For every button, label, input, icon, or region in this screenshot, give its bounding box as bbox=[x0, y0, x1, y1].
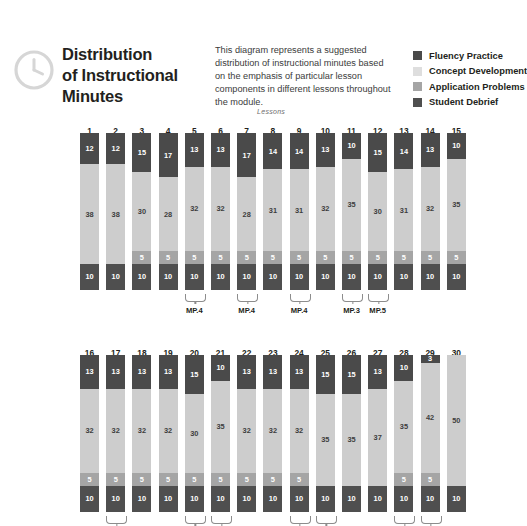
segment-debrief-lesson-5: 10 bbox=[185, 264, 204, 290]
legend-swatch-application-problems bbox=[413, 82, 422, 91]
segment-fluency-lesson-21: 10 bbox=[211, 355, 230, 381]
mp-bracket-lesson-20 bbox=[185, 516, 206, 524]
mp-bracket-lesson-24 bbox=[290, 516, 311, 524]
segment-debrief-lesson-3: 10 bbox=[132, 264, 151, 290]
legend-swatch-fluency bbox=[413, 51, 422, 60]
lesson-bar-15[interactable]: 1035510 bbox=[447, 140, 466, 290]
segment-app-lesson-23: 5 bbox=[263, 473, 282, 486]
segment-fluency-lesson-7: 17 bbox=[237, 133, 256, 178]
lesson-bar-19[interactable]: 1332510 bbox=[159, 362, 178, 512]
lesson-bar-14[interactable]: 1332510 bbox=[421, 140, 440, 290]
segment-debrief-lesson-7: 10 bbox=[237, 264, 256, 290]
segment-debrief-lesson-11: 10 bbox=[342, 264, 361, 290]
lesson-bar-28[interactable]: 1035510 bbox=[394, 362, 413, 512]
lesson-bar-29[interactable]: 342510 bbox=[421, 362, 440, 512]
lesson-bar-5[interactable]: 1332510 bbox=[185, 140, 204, 290]
segment-app-lesson-6: 5 bbox=[211, 251, 230, 264]
segment-app-lesson-14: 5 bbox=[421, 251, 440, 264]
lesson-bar-9[interactable]: 1431510 bbox=[290, 140, 309, 290]
mp-bracket-lesson-11 bbox=[342, 294, 363, 302]
lesson-bar-8[interactable]: 1431510 bbox=[263, 140, 282, 290]
segment-concept-lesson-9: 31 bbox=[290, 169, 309, 250]
lesson-bar-27[interactable]: 133710 bbox=[368, 362, 387, 512]
segment-app-lesson-9: 5 bbox=[290, 251, 309, 264]
legend-label-student-debrief: Student Debrief bbox=[429, 97, 498, 107]
segment-debrief-lesson-29: 10 bbox=[421, 486, 440, 512]
segment-debrief-lesson-28: 10 bbox=[394, 486, 413, 512]
mp-bracket-lesson-21 bbox=[211, 516, 232, 524]
lesson-bar-16[interactable]: 1332510 bbox=[80, 362, 99, 512]
segment-debrief-lesson-15: 10 bbox=[447, 264, 466, 290]
segment-fluency-lesson-2: 12 bbox=[106, 133, 125, 164]
segment-app-lesson-21: 5 bbox=[211, 473, 230, 486]
segment-fluency-lesson-15: 10 bbox=[447, 133, 466, 159]
lesson-bar-3[interactable]: 1530510 bbox=[132, 140, 151, 290]
segment-concept-lesson-30: 50 bbox=[447, 355, 466, 486]
lesson-bar-13[interactable]: 1431510 bbox=[394, 140, 413, 290]
segment-concept-lesson-11: 35 bbox=[342, 159, 361, 251]
segment-debrief-lesson-27: 10 bbox=[368, 486, 387, 512]
segment-debrief-lesson-30: 10 bbox=[447, 486, 466, 512]
lesson-bar-21[interactable]: 1035510 bbox=[211, 362, 230, 512]
segment-concept-lesson-12: 30 bbox=[368, 172, 387, 251]
lesson-bar-17[interactable]: 1332510 bbox=[106, 362, 125, 512]
segment-app-lesson-11: 5 bbox=[342, 251, 361, 264]
lesson-bar-11[interactable]: 1035510 bbox=[342, 140, 361, 290]
segment-debrief-lesson-19: 10 bbox=[159, 486, 178, 512]
segment-debrief-lesson-1: 10 bbox=[80, 264, 99, 290]
segment-debrief-lesson-21: 10 bbox=[211, 486, 230, 512]
segment-concept-lesson-3: 30 bbox=[132, 172, 151, 251]
mp-bracket-lesson-29 bbox=[421, 516, 442, 524]
segment-concept-lesson-20: 30 bbox=[185, 394, 204, 473]
lesson-bar-20[interactable]: 1530510 bbox=[185, 362, 204, 512]
lesson-bar-26[interactable]: 153510 bbox=[342, 362, 361, 512]
lesson-bar-4[interactable]: 1728510 bbox=[159, 140, 178, 290]
segment-concept-lesson-25: 35 bbox=[316, 394, 335, 486]
lesson-bar-6[interactable]: 1332510 bbox=[211, 140, 230, 290]
segment-concept-lesson-19: 32 bbox=[159, 389, 178, 473]
segment-debrief-lesson-4: 10 bbox=[159, 264, 178, 290]
lesson-bar-10[interactable]: 1332510 bbox=[316, 140, 335, 290]
segment-debrief-lesson-25: 10 bbox=[316, 486, 335, 512]
segment-app-lesson-15: 5 bbox=[447, 251, 466, 264]
lesson-bar-25[interactable]: 153510 bbox=[316, 362, 335, 512]
clock-icon bbox=[12, 48, 56, 92]
segment-debrief-lesson-9: 10 bbox=[290, 264, 309, 290]
mp-label-mp-4-lesson-5: MP.4 bbox=[177, 306, 211, 315]
lesson-bar-23[interactable]: 1332510 bbox=[263, 362, 282, 512]
lesson-bar-2[interactable]: 123810 bbox=[106, 140, 125, 290]
segment-concept-lesson-8: 31 bbox=[263, 169, 282, 250]
segment-fluency-lesson-9: 14 bbox=[290, 133, 309, 170]
segment-fluency-lesson-3: 15 bbox=[132, 133, 151, 172]
segment-concept-lesson-16: 32 bbox=[80, 389, 99, 473]
segment-fluency-lesson-1: 12 bbox=[80, 133, 99, 164]
segment-concept-lesson-1: 38 bbox=[80, 164, 99, 264]
segment-app-lesson-4: 5 bbox=[159, 251, 178, 264]
segment-app-lesson-29: 5 bbox=[421, 473, 440, 486]
diagram-header: Distribution of Instructional Minutes Th… bbox=[0, 18, 527, 108]
segment-app-lesson-7: 5 bbox=[237, 251, 256, 264]
mp-bracket-lesson-28 bbox=[394, 516, 415, 524]
segment-concept-lesson-13: 31 bbox=[394, 169, 413, 250]
segment-app-lesson-8: 5 bbox=[263, 251, 282, 264]
lesson-bar-24[interactable]: 1332510 bbox=[290, 362, 309, 512]
segment-app-lesson-19: 5 bbox=[159, 473, 178, 486]
lesson-bar-7[interactable]: 1728510 bbox=[237, 140, 256, 290]
lesson-bar-1[interactable]: 123810 bbox=[80, 140, 99, 290]
legend-item-student-debrief: Student Debrief bbox=[413, 95, 527, 111]
lesson-bar-30[interactable]: 5010 bbox=[447, 362, 466, 512]
segment-fluency-lesson-22: 13 bbox=[237, 355, 256, 389]
segment-app-lesson-16: 5 bbox=[80, 473, 99, 486]
segment-app-lesson-24: 5 bbox=[290, 473, 309, 486]
segment-app-lesson-3: 5 bbox=[132, 251, 151, 264]
segment-app-lesson-20: 5 bbox=[185, 473, 204, 486]
lesson-bar-18[interactable]: 1332510 bbox=[132, 362, 151, 512]
segment-fluency-lesson-8: 14 bbox=[263, 133, 282, 170]
segment-fluency-lesson-29: 3 bbox=[421, 355, 440, 363]
mp-bracket-lesson-25 bbox=[316, 516, 337, 524]
lesson-bar-22[interactable]: 1332510 bbox=[237, 362, 256, 512]
lesson-bar-12[interactable]: 1530510 bbox=[368, 140, 387, 290]
legend-swatch-concept-development bbox=[413, 67, 422, 76]
segment-concept-lesson-17: 32 bbox=[106, 389, 125, 473]
segment-app-lesson-12: 5 bbox=[368, 251, 387, 264]
